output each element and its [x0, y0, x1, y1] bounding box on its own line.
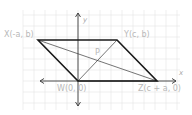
point-w-label: W(0, 0)	[57, 84, 86, 93]
parallelogram-diagram: x y X(-a, b) Y(c, b) W(0, 0) Z(c + a, 0)…	[0, 0, 192, 115]
x-axis-label: x	[178, 69, 184, 77]
grid	[23, 10, 180, 110]
point-x-label: X(-a, b)	[4, 30, 34, 39]
point-y-label: Y(c, b)	[123, 30, 150, 39]
y-axis-label: y	[82, 16, 88, 24]
point-p-label: P	[95, 48, 100, 57]
point-z-label: Z(c + a, 0)	[138, 84, 181, 93]
